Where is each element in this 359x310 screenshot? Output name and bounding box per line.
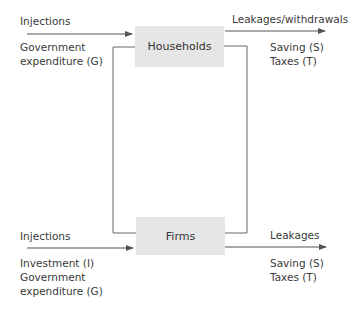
top-leakages-label: Leakages/withdrawals bbox=[232, 12, 348, 26]
top-leakage-item: Taxes (T) bbox=[270, 54, 317, 68]
bottom-injections-label: Injections bbox=[20, 229, 71, 243]
bottom-injection-item: expenditure (G) bbox=[20, 284, 103, 298]
top-injections-label: Injections bbox=[20, 14, 71, 28]
top-injection-item: Government bbox=[20, 40, 85, 54]
firms-label: Firms bbox=[166, 230, 195, 243]
right-loop-line bbox=[224, 46, 247, 233]
top-leakage-item: Saving (S) bbox=[270, 40, 324, 54]
bottom-injection-item: Government bbox=[20, 270, 85, 284]
bottom-leakage-item: Saving (S) bbox=[270, 256, 324, 270]
left-loop-line bbox=[113, 47, 136, 233]
bottom-leakages-label: Leakages bbox=[270, 228, 320, 242]
households-label: Households bbox=[148, 40, 212, 53]
firms-node: Firms bbox=[136, 217, 225, 255]
bottom-leakage-item: Taxes (T) bbox=[270, 270, 317, 284]
top-injection-item: expenditure (G) bbox=[20, 54, 103, 68]
bottom-injection-item: Investment (I) bbox=[20, 256, 94, 270]
households-node: Households bbox=[135, 26, 224, 67]
